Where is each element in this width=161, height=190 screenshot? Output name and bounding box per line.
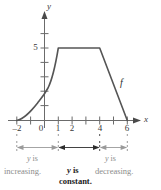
caption-constant: y is xyxy=(67,166,79,175)
x-tick-label-6: 6 xyxy=(121,124,133,133)
interval-verb-increasing: is xyxy=(33,154,38,163)
caption-decreasing: decreasing. xyxy=(95,167,133,176)
graph-plot xyxy=(0,0,161,190)
caption-increasing-text: increasing. xyxy=(4,166,41,176)
caption-constant-verb: is xyxy=(73,165,79,175)
curve-label-f: f xyxy=(120,78,123,88)
interval-label-increasing-line1: y is xyxy=(27,155,38,163)
graph-figure: y x f 5 –2 0 1 2 4 6 y is y is increasin… xyxy=(0,0,161,190)
x-axis-label: x xyxy=(144,115,148,124)
caption-constant-variable: y xyxy=(67,165,71,175)
interval-variable-decreasing: y xyxy=(105,154,109,163)
caption-constant-word: constant. xyxy=(59,177,92,186)
x-tick-label-neg2: –2 xyxy=(9,124,25,133)
function-curve xyxy=(17,48,128,121)
x-tick-label-2: 2 xyxy=(66,124,78,133)
x-tick-label-0: 0 xyxy=(35,124,47,133)
interval-verb-decreasing: is xyxy=(111,154,116,163)
y-axis-label: y xyxy=(47,2,51,11)
caption-decreasing-text: decreasing. xyxy=(95,166,133,176)
y-tick-label-5: 5 xyxy=(31,43,40,52)
x-axis-arrowhead xyxy=(133,118,141,124)
x-tick-label-4: 4 xyxy=(94,124,106,133)
caption-constant-text: constant. xyxy=(59,176,92,186)
interval-variable-increasing: y xyxy=(27,154,31,163)
y-axis-arrowhead xyxy=(42,11,48,19)
interval-indicators xyxy=(17,134,128,152)
x-tick-label-1: 1 xyxy=(52,124,64,133)
caption-increasing: increasing. xyxy=(4,167,41,176)
interval-label-decreasing-line1: y is xyxy=(105,155,116,163)
